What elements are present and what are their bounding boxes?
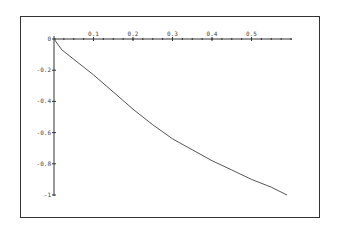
y-tick-label: -0.6 — [37, 129, 52, 136]
axes — [52, 36, 292, 196]
y-tick-label: -0.2 — [37, 66, 52, 73]
x-tick-label: 0.2 — [128, 30, 139, 37]
y-tick-label: -0.4 — [37, 97, 52, 104]
line-chart: 0.10.20.30.40.50-0.2-0.4-0.6-0.8-1 — [0, 0, 338, 230]
y-tick-label: -0.8 — [37, 160, 52, 167]
tick-labels: 0.10.20.30.40.50-0.2-0.4-0.6-0.8-1 — [37, 30, 258, 198]
data-curve — [54, 39, 287, 195]
y-tick-label: 0 — [47, 35, 51, 42]
x-tick-label: 0.5 — [246, 30, 257, 37]
x-tick-label: 0.1 — [88, 30, 99, 37]
x-tick-label: 0.3 — [167, 30, 178, 37]
x-tick-label: 0.4 — [207, 30, 218, 37]
y-tick-label: -1 — [44, 191, 52, 198]
